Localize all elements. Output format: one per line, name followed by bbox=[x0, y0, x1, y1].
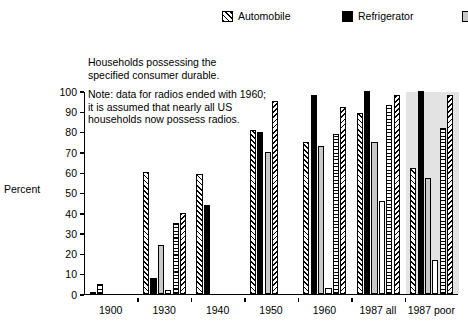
bar bbox=[318, 146, 324, 294]
x-axis-tick-mark bbox=[298, 298, 299, 302]
x-axis-tick-label: 1987 poor bbox=[408, 304, 455, 316]
bar bbox=[272, 101, 278, 294]
bar bbox=[158, 245, 164, 294]
bar bbox=[340, 107, 346, 294]
y-axis-tick-label: 80 bbox=[65, 127, 80, 138]
y-axis-title: Percent bbox=[4, 183, 40, 195]
x-axis-tick-mark bbox=[405, 298, 406, 302]
legend: AutomobileRefrigeratorWashing machineDis… bbox=[222, 8, 462, 25]
diagonal-hatch-swatch bbox=[222, 11, 233, 22]
y-axis-tick-label: 50 bbox=[65, 188, 80, 199]
bar bbox=[371, 142, 377, 294]
bar bbox=[325, 288, 331, 294]
bar bbox=[311, 95, 317, 294]
x-axis-tick-label: 1940 bbox=[206, 304, 229, 316]
bar bbox=[303, 142, 309, 294]
bar bbox=[386, 105, 392, 294]
bars-layer bbox=[85, 92, 458, 294]
bar bbox=[364, 91, 370, 294]
y-axis-tick-label: 10 bbox=[65, 269, 80, 280]
x-axis-tick-label: 1930 bbox=[152, 304, 175, 316]
legend-label: Refrigerator bbox=[358, 11, 413, 22]
legend-item: Refrigerator bbox=[342, 8, 452, 25]
legend-item: Automobile bbox=[222, 8, 332, 25]
bar bbox=[447, 95, 453, 294]
bar bbox=[196, 174, 202, 294]
bar bbox=[150, 278, 156, 294]
solid-black-swatch bbox=[342, 11, 353, 22]
bar bbox=[257, 132, 263, 294]
y-axis-tick-label: 100 bbox=[59, 86, 80, 97]
bar bbox=[90, 292, 96, 294]
y-axis-tick-label: 60 bbox=[65, 167, 80, 178]
y-axis-tick-label: 20 bbox=[65, 249, 80, 260]
y-axis-tick-label: 90 bbox=[65, 107, 80, 118]
y-axis-tick-label: 40 bbox=[65, 208, 80, 219]
bar bbox=[357, 113, 363, 294]
gray-fill-swatch bbox=[462, 11, 468, 22]
x-axis-tick-label: 1987 all bbox=[359, 304, 396, 316]
y-axis-tick-label: 30 bbox=[65, 228, 80, 239]
bar bbox=[173, 223, 179, 294]
x-axis-tick-mark bbox=[137, 298, 138, 302]
bar bbox=[250, 130, 256, 294]
x-axis-tick-mark bbox=[191, 298, 192, 302]
legend-item: Washing machine bbox=[462, 8, 468, 25]
x-axis-tick-label: 1950 bbox=[259, 304, 282, 316]
x-axis-tick-mark bbox=[244, 298, 245, 302]
x-axis-tick-mark bbox=[351, 298, 352, 302]
x-axis-tick-label: 1900 bbox=[99, 304, 122, 316]
legend-label: Automobile bbox=[238, 11, 291, 22]
bar bbox=[180, 213, 186, 294]
x-axis: 190019301940195019601987 all1987 poor bbox=[84, 298, 458, 318]
bar bbox=[333, 134, 339, 294]
bar bbox=[379, 201, 385, 294]
y-axis-tick-label: 0 bbox=[71, 289, 80, 300]
plot-area bbox=[84, 92, 458, 295]
x-axis-tick-label: 1960 bbox=[313, 304, 336, 316]
bar bbox=[143, 172, 149, 294]
bar bbox=[97, 284, 103, 294]
bar bbox=[418, 91, 424, 294]
bar bbox=[165, 290, 171, 294]
bar bbox=[394, 95, 400, 294]
bar bbox=[432, 260, 438, 295]
bar bbox=[204, 205, 210, 294]
bar bbox=[425, 178, 431, 294]
bar bbox=[440, 128, 446, 294]
chart-caption: Households possessing the specified cons… bbox=[88, 56, 219, 81]
bar bbox=[265, 152, 271, 294]
bar bbox=[410, 168, 416, 294]
y-axis-tick-label: 70 bbox=[65, 147, 80, 158]
